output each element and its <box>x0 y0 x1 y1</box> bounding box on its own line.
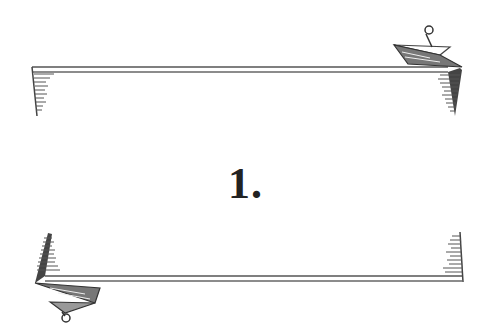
bottom-banner <box>35 232 463 322</box>
top-left-fold <box>32 67 54 116</box>
section-number: 1. <box>0 158 491 209</box>
bottom-tab-with-loop <box>35 283 100 322</box>
top-banner <box>32 26 462 116</box>
bottom-right-fold <box>443 232 463 282</box>
top-right-fold <box>438 68 462 116</box>
top-tab-with-loop <box>394 26 462 67</box>
